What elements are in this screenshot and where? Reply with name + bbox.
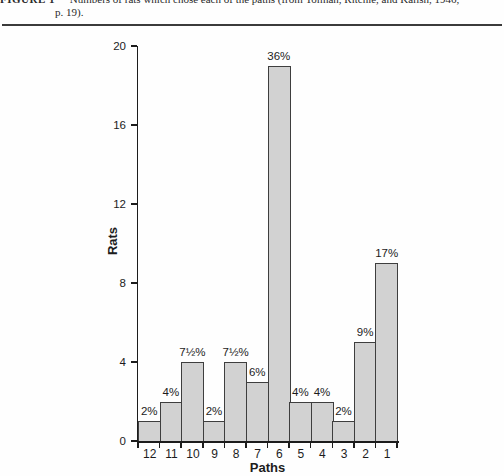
y-tick	[131, 282, 137, 284]
x-tick-label: 1	[375, 447, 399, 461]
bar-value-label: 4%	[300, 385, 344, 399]
y-tick-label: 12	[96, 197, 126, 211]
bar-path-9	[203, 421, 226, 441]
y-tick	[131, 45, 137, 47]
bar-path-10	[181, 362, 204, 441]
y-axis-title: Rats	[105, 211, 120, 271]
x-tick-label: 5	[289, 447, 313, 461]
x-tick-label: 3	[332, 447, 356, 461]
bar-chart: Rats 0481216202%124%117½%102%97½%86%736%…	[0, 0, 504, 476]
bar-path-12	[138, 421, 161, 441]
y-tick-label: 4	[96, 355, 126, 369]
x-tick-label: 11	[159, 447, 183, 461]
bar-path-7	[246, 382, 269, 441]
y-tick	[131, 440, 137, 442]
y-axis-line	[137, 46, 139, 443]
bar-path-5	[289, 402, 312, 442]
x-axis-title: Paths	[233, 460, 303, 475]
y-tick	[131, 124, 137, 126]
x-tick-label: 4	[310, 447, 334, 461]
x-tick-label: 9	[203, 447, 227, 461]
bar-value-label: 17%	[365, 246, 409, 260]
x-tick-label: 2	[354, 447, 378, 461]
y-tick	[131, 361, 137, 363]
y-tick-label: 16	[96, 118, 126, 132]
y-tick-label: 8	[96, 276, 126, 290]
x-tick-label: 10	[181, 447, 205, 461]
bar-path-3	[332, 421, 355, 441]
x-tick-label: 6	[267, 447, 291, 461]
bar-value-label: 36%	[257, 49, 301, 63]
y-tick-label: 20	[96, 39, 126, 53]
bar-value-label: 7½%	[170, 345, 214, 359]
y-tick-label: 0	[96, 434, 126, 448]
x-tick-label: 8	[224, 447, 248, 461]
scanned-figure-page: FIGURE 1 Numbers of rats which chose eac…	[0, 0, 504, 476]
x-tick-label: 12	[138, 447, 162, 461]
bar-path-1	[375, 263, 398, 441]
bar-path-2	[354, 342, 377, 441]
y-tick	[131, 203, 137, 205]
x-tick-label: 7	[246, 447, 270, 461]
bar-value-label: 7½%	[214, 345, 258, 359]
bar-path-11	[160, 402, 183, 442]
